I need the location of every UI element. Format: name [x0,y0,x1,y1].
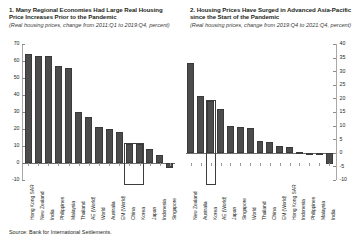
bar [116,132,123,163]
category-label: China [131,207,136,220]
bar [156,155,163,164]
x-tick-mark [150,163,151,166]
bar [55,66,62,163]
x-tick-mark [260,163,261,166]
x-tick-mark [319,163,320,166]
panel-2-bars [183,40,361,220]
bar [45,56,52,163]
category-label: Japan [152,207,157,220]
bar [35,56,42,163]
category-label: Korea [141,207,146,220]
bar [286,147,293,152]
figure-housing-prices: 1. Many Regional Economies Had Large Rea… [0,0,362,242]
bar [237,127,244,153]
category-label: Australia [111,201,116,220]
x-tick-mark [211,163,212,166]
x-tick-mark [140,163,141,166]
x-tick-mark [79,163,80,166]
category-label: World [101,208,106,220]
highlight-box [206,100,216,185]
x-tick-mark [129,163,130,166]
bar [276,146,283,153]
category-label: New Zealand [193,192,198,220]
category-label: Australia [203,201,208,220]
bar [247,128,254,152]
bar [106,129,113,163]
x-tick-mark [230,163,231,166]
x-tick-mark [69,163,70,166]
x-tick-mark [99,163,100,166]
x-tick-mark [160,163,161,166]
x-tick-mark [250,163,251,166]
x-tick-mark [58,163,59,166]
panel-1-plot: 706050403020100-10 Hong Kong SARNew Zeal… [2,40,178,220]
x-tick-mark [221,163,222,166]
x-tick-mark [270,163,271,166]
bar [266,142,273,153]
bar [217,109,224,153]
bar [296,152,303,154]
category-label: China [272,207,277,220]
x-tick-mark [280,163,281,166]
x-tick-mark [240,163,241,166]
highlight-box [124,143,144,185]
bar [25,54,32,163]
panel-2: 2. Housing Prices Have Surged in Advance… [181,0,362,220]
bar [197,96,204,153]
category-label: Indonesia [301,199,306,220]
category-label: Philippines [311,197,316,220]
category-label: Singapore [172,198,177,220]
category-label: EM (World) [282,196,287,220]
x-tick-mark [290,163,291,166]
bar [95,127,102,163]
category-label: Thailand [81,202,86,220]
category-label: Hong Kong SAR [30,185,35,220]
x-tick-mark [89,163,90,166]
category-label: New Zealand [40,192,45,220]
category-label: Hong Kong SAR [292,185,297,220]
x-tick-mark [299,163,300,166]
bar [187,63,194,153]
x-tick-mark [170,163,171,166]
category-label: India [331,210,336,220]
x-tick-mark [191,163,192,166]
x-tick-mark [119,163,120,166]
category-label: Singapore [242,198,247,220]
category-label: EM (World) [121,196,126,220]
category-label: Indonesia [162,199,167,220]
category-label: Japan [232,207,237,220]
category-label: Malaysia [71,201,76,220]
x-tick-mark [201,163,202,166]
x-tick-mark [109,163,110,166]
x-tick-mark [28,163,29,166]
category-label: AE (World) [91,197,96,220]
category-label: Korea [213,207,218,220]
panel-1: 1. Many Regional Economies Had Large Rea… [0,0,181,220]
panel-2-subtitle: (Real housing prices, change from 2019:Q… [181,22,362,29]
bar [65,68,72,163]
x-tick-mark [38,163,39,166]
bar [146,149,153,163]
bar [227,126,234,153]
source-note: Source: Bank for International Settlemen… [9,229,112,235]
bar [306,153,313,155]
category-label: Thailand [262,202,267,220]
category-label: World [252,208,257,220]
bar [316,153,323,155]
panel-2-plot: 4035302520151050-5-10 New ZealandAustral… [183,40,361,220]
x-tick-mark [48,163,49,166]
category-label: India [50,210,55,220]
bar [85,117,92,163]
bar [75,112,82,163]
category-label: Philippines [60,197,65,220]
panel-1-subtitle: (Real housing prices, change from 2011:Q… [0,22,181,29]
panel-1-title: 1. Many Regional Economies Had Large Rea… [0,0,181,21]
x-tick-mark [309,163,310,166]
panel-2-title: 2. Housing Prices Have Surged in Advance… [181,0,362,21]
category-label: Malaysia [321,201,326,220]
category-label: AE (World) [222,197,227,220]
x-tick-mark [329,163,330,166]
bar [257,141,264,153]
